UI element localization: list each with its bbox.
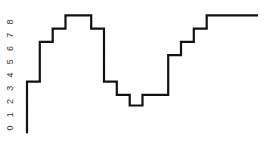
y-tick-label: 0 xyxy=(5,125,15,130)
y-tick-label: 7 xyxy=(5,33,15,38)
step-line-series-1 xyxy=(27,15,258,133)
y-tick-label: 4 xyxy=(5,72,15,77)
y-axis-tick-labels: 012345678 xyxy=(5,19,15,130)
y-tick-label: 6 xyxy=(5,46,15,51)
y-tick-label: 5 xyxy=(5,59,15,64)
y-tick-label: 8 xyxy=(5,19,15,24)
y-tick-label: 2 xyxy=(5,99,15,104)
step-chart: 012345678 xyxy=(0,0,271,143)
y-tick-label: 1 xyxy=(5,112,15,117)
y-tick-label: 3 xyxy=(5,86,15,91)
